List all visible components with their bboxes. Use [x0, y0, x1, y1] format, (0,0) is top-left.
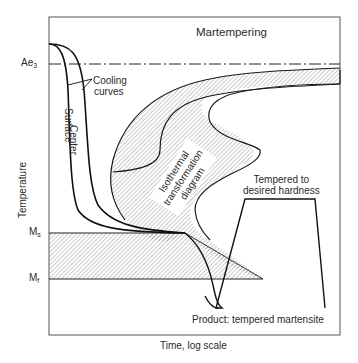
surface-curve-label: Surface	[63, 108, 73, 142]
ae3-label: Ae3	[21, 58, 37, 69]
tempered-line2: desired hardness	[243, 185, 320, 196]
martempering-diagram: Martempering Ae3 Ms Mf Cooling curves Ce…	[0, 0, 358, 363]
diagram-title: Martempering	[196, 27, 267, 39]
product-label: Product: tempered martensite	[192, 315, 324, 325]
cooling-curves-label: Cooling curves	[93, 75, 127, 97]
mf-label: Mf	[29, 273, 39, 284]
cooling-label-pointer	[68, 79, 92, 90]
tempered-line1: Tempered to	[243, 174, 320, 185]
x-axis-label: Time, log scale	[160, 341, 227, 351]
cooling-curves-line2: curves	[93, 86, 127, 97]
ms-label: Ms	[29, 227, 41, 238]
cooling-curves-line1: Cooling	[93, 75, 127, 86]
y-axis-label: Temperature	[18, 160, 28, 220]
tempered-label: Tempered to desired hardness	[243, 174, 320, 196]
